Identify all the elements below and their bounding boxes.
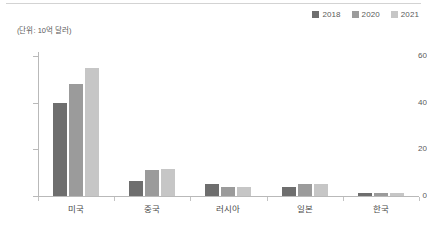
bar-2018[interactable] xyxy=(53,103,67,196)
bar-2018[interactable] xyxy=(358,193,372,196)
bar-2021[interactable] xyxy=(390,193,404,196)
x-category-label: 중국 xyxy=(114,204,190,215)
x-category-label: 미국 xyxy=(38,204,114,215)
bar-2021[interactable] xyxy=(85,68,99,196)
x-tick-mark xyxy=(419,197,420,201)
bar-2020[interactable] xyxy=(374,193,388,196)
x-category-label: 일본 xyxy=(267,204,343,215)
bar-2021[interactable] xyxy=(161,169,175,196)
bar-group xyxy=(38,56,114,196)
bar-2020[interactable] xyxy=(145,170,159,196)
bar-2018[interactable] xyxy=(205,184,219,196)
bar-2018[interactable] xyxy=(129,181,143,196)
plot-area: 0204060 미국중국러시아일본한국 xyxy=(0,0,427,236)
bar-2018[interactable] xyxy=(282,187,296,196)
bar-group xyxy=(114,56,190,196)
x-axis-line xyxy=(38,196,419,197)
x-category-label: 한국 xyxy=(343,204,419,215)
bar-2021[interactable] xyxy=(237,187,251,196)
x-category-label: 러시아 xyxy=(190,204,266,215)
bar-group xyxy=(267,56,343,196)
bar-chart-figure: 2018 2020 2021 (단위: 10억 달러) 0204060 미국중국… xyxy=(0,0,427,236)
x-tick-mark xyxy=(190,197,191,201)
bar-group xyxy=(343,56,419,196)
x-tick-mark xyxy=(267,197,268,201)
bar-2021[interactable] xyxy=(314,184,328,196)
x-tick-mark xyxy=(114,197,115,201)
x-tick-mark xyxy=(38,197,39,201)
x-tick-mark xyxy=(343,197,344,201)
bar-2020[interactable] xyxy=(69,84,83,196)
bar-2020[interactable] xyxy=(298,184,312,196)
bar-2020[interactable] xyxy=(221,187,235,196)
bar-group xyxy=(190,56,266,196)
